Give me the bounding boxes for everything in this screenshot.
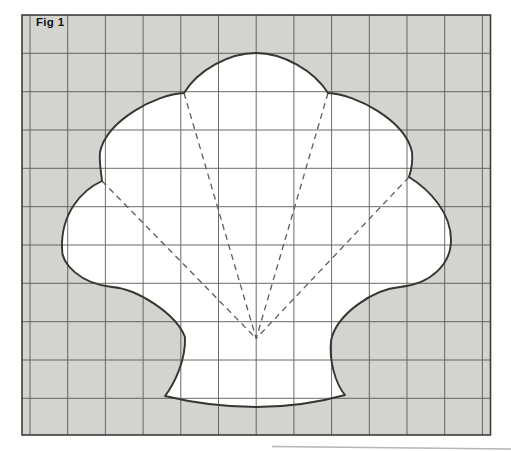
scanned-page: Fig 1 [0,0,511,451]
figure-canvas [0,0,511,451]
figure-label: Fig 1 [36,16,64,28]
page-edge-artifact [272,447,511,450]
